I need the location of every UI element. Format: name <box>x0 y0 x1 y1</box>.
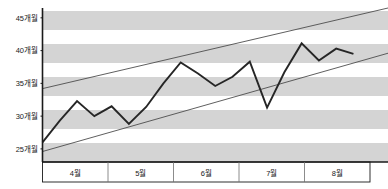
line-chart: 45개월40개월35개월30개월25개월 4월5월6월7월8월 <box>0 0 388 189</box>
y-tick-label-25: 25개월 <box>16 144 38 154</box>
band-5 <box>42 143 388 162</box>
y-tick-label-40: 40개월 <box>16 45 38 55</box>
band-4 <box>42 110 388 129</box>
y-tick-label-35: 35개월 <box>16 78 38 88</box>
y-axis-tick-labels: 45개월40개월35개월30개월25개월 <box>16 13 43 154</box>
band-2 <box>42 44 388 63</box>
x-tick-label-2: 6월 <box>201 168 212 178</box>
y-tick-label-45: 45개월 <box>16 13 38 23</box>
x-tick-label-4: 8월 <box>332 168 343 178</box>
x-tick-label-3: 7월 <box>266 168 277 178</box>
x-tick-label-0: 4월 <box>70 168 81 178</box>
chart-container: 45개월40개월35개월30개월25개월 4월5월6월7월8월 <box>0 0 388 189</box>
y-tick-label-30: 30개월 <box>16 111 38 121</box>
x-tick-label-1: 5월 <box>135 168 146 178</box>
lower-trend-line <box>43 53 388 151</box>
x-axis-tick-labels: 4월5월6월7월8월 <box>70 168 343 178</box>
